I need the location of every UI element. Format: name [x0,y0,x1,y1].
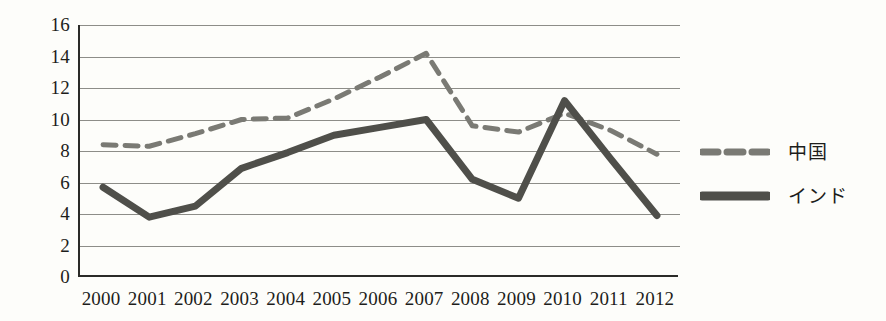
y-axis-tick-8: 8 [26,141,70,160]
y-axis-tick-6: 6 [26,173,70,192]
y-axis-tick-0: 0 [26,267,70,286]
y-axis-tick-12: 12 [26,78,70,97]
legend-entry-india: インド [700,174,880,218]
chart-legend: 中国 インド [700,130,880,218]
x-axis-tick-2012: 2012 [626,288,684,310]
y-axis-tick-labels: 0246810121416 [26,0,70,321]
line-chart: 0246810121416 20002001200220032004200520… [0,0,886,321]
y-axis-tick-16: 16 [26,15,70,34]
legend-entry-china: 中国 [700,130,880,174]
y-axis-tick-14: 14 [26,47,70,66]
legend-swatch-solid-icon [700,189,770,203]
legend-label-china: 中国 [788,143,828,162]
series-line-china [103,53,657,154]
plot-area [78,25,678,277]
legend-swatch-dashed-icon [700,145,770,159]
y-axis-tick-10: 10 [26,110,70,129]
legend-label-india: インド [788,187,848,206]
series-lines [80,25,680,277]
y-axis-tick-2: 2 [26,236,70,255]
y-axis-tick-4: 4 [26,204,70,223]
x-axis-tick-labels: 2000200120022003200420052006200720082009… [78,288,678,314]
